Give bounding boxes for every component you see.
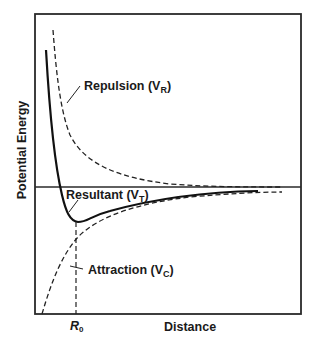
attraction-curve <box>42 192 282 314</box>
repulsion-label: Repulsion (VR) <box>84 79 171 95</box>
attraction-label: Attraction (VC) <box>88 263 174 279</box>
x-axis-label: Distance <box>164 320 216 334</box>
repulsion-curve <box>53 30 282 187</box>
resultant-label: Resultant (VT) <box>66 188 149 204</box>
potential-energy-chart: Repulsion (VR) Resultant (VT) Attraction… <box>0 0 316 342</box>
r0-tick-label: R0 <box>70 319 84 334</box>
repulsion-leader <box>67 86 80 103</box>
y-axis-label: Potential Energy <box>15 101 29 200</box>
